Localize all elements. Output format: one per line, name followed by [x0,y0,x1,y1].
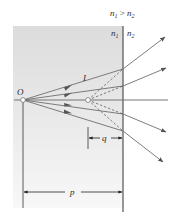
refracted-ray-3 [123,114,166,132]
refracted-ray-2 [123,68,166,86]
object-distance-label: p [69,187,75,197]
refracted-ray-1 [123,37,165,69]
object-point [21,98,26,103]
image-point [86,98,91,103]
condition-label: n1 > n2 [110,8,135,19]
image-distance-label: q [102,133,107,143]
refraction-diagram: n1 > n2 n1 n2 O I q p [0,0,176,218]
medium-n1-region [13,26,123,208]
medium-n2-label: n2 [127,28,135,39]
refracted-ray-4 [123,131,163,162]
object-label: O [17,87,24,97]
